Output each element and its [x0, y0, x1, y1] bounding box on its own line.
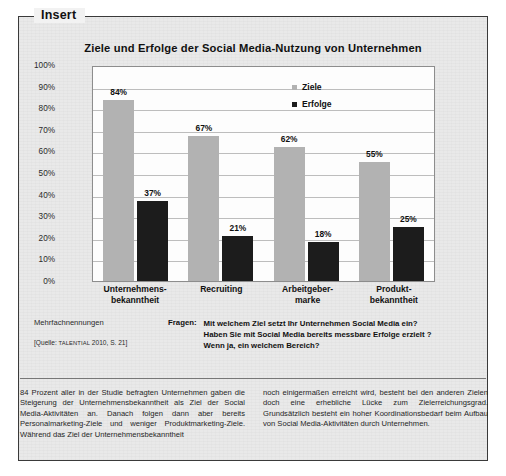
y-axis-tick-label: 40% [21, 191, 55, 200]
bar-group: 84%37% [93, 67, 178, 281]
x-axis-category-line: Arbeitgeber- [265, 284, 351, 295]
source-citation: [Quelle: TALENTIAL 2010, S. 21] [34, 339, 162, 346]
body-column-right: noch einigermaßen erreicht wird, besteht… [263, 388, 488, 440]
questions-block: Fragen: Mit welchem Ziel setzt Ihr Unter… [168, 318, 432, 351]
questions-list: Mit welchem Ziel setzt Ihr Unternehmen S… [204, 318, 432, 351]
bar-chart: 84%37%67%21%62%18%55%25% 100%90%80%70%60… [55, 66, 437, 282]
x-axis-category-label: Unternehmens-bekanntheit [92, 284, 178, 305]
chart-notes: Mehrfachnennungen [Quelle: TALENTIAL 201… [34, 318, 162, 346]
bar-erfolge: 21% [222, 236, 253, 281]
legend-label-erfolge: Erfolge [302, 99, 332, 109]
x-axis-labels: Unternehmens-bekanntheitRecruitingArbeit… [92, 284, 437, 305]
y-axis-tick-label: 30% [21, 212, 55, 221]
multiple-answers-note: Mehrfachnennungen [34, 318, 162, 327]
questions-label: Fragen: [168, 318, 197, 351]
bar-ziele: 62% [274, 147, 305, 281]
bar-value-label: 25% [400, 214, 417, 224]
bar-ziele: 84% [103, 100, 134, 281]
y-axis-tick-label: 60% [21, 147, 55, 156]
y-axis-tick-label: 70% [21, 126, 55, 135]
bar-value-label: 21% [229, 223, 246, 233]
bar-value-label: 84% [110, 87, 127, 97]
chart-plot-area: 84%37%67%21%62%18%55%25% [92, 66, 435, 282]
bar-ziele: 67% [188, 136, 219, 281]
bar-group: 67%21% [178, 67, 263, 281]
question-line: Haben Sie mit Social Media bereits messb… [204, 329, 432, 340]
source-suffix: 2010, S. 21] [90, 339, 127, 346]
x-axis-category-line: bekanntheit [351, 295, 437, 306]
source-prefix: [Quelle: [34, 339, 59, 346]
bar-value-label: 37% [144, 188, 161, 198]
x-axis-category-line: Unternehmens- [92, 284, 178, 295]
x-axis-category-label: Produkt-bekanntheit [351, 284, 437, 305]
bar-erfolge: 25% [393, 227, 424, 281]
y-axis-tick-label: 10% [21, 255, 55, 264]
bar-value-label: 62% [281, 134, 298, 144]
x-axis-category-line: Produkt- [351, 284, 437, 295]
bar-value-label: 67% [195, 123, 212, 133]
y-axis-tick-label: 90% [21, 83, 55, 92]
bar-erfolge: 18% [308, 242, 339, 281]
y-axis-tick-label: 50% [21, 169, 55, 178]
legend-swatch-icon-ziele [292, 85, 297, 90]
bar-value-label: 55% [366, 149, 383, 159]
legend-item-erfolge: Erfolge [292, 99, 332, 109]
insert-legend-label: Insert [34, 8, 85, 23]
question-line: Wenn ja, ein welchem Bereich? [204, 340, 432, 351]
legend-label-ziele: Ziele [302, 82, 322, 92]
question-line: Mit welchem Ziel setzt Ihr Unternehmen S… [204, 318, 432, 329]
y-axis-tick-label: 20% [21, 234, 55, 243]
x-axis-category-label: Recruiting [178, 284, 264, 305]
bar-erfolge: 37% [137, 201, 168, 281]
legend-item-ziele: Ziele [292, 82, 332, 92]
x-axis-category-line: Recruiting [178, 284, 264, 295]
body-column-left: 84 Prozent aller in der Studie befragten… [20, 388, 245, 440]
source-name: TALENTIAL [59, 340, 90, 346]
scanned-page: Insert Ziele und Erfolge der Social Medi… [0, 0, 506, 476]
legend-swatch-icon-erfolge [292, 102, 297, 107]
chart-bars: 84%37%67%21%62%18%55%25% [93, 67, 434, 281]
x-axis-category-label: Arbeitgeber-marke [265, 284, 351, 305]
chart-legend: Ziele Erfolge [292, 82, 332, 116]
y-axis-tick-label: 0% [21, 277, 55, 286]
y-axis-tick-label: 80% [21, 104, 55, 113]
chart-title: Ziele und Erfolge der Social Media-Nutzu… [0, 42, 506, 54]
x-axis-category-line: bekanntheit [92, 295, 178, 306]
y-axis-tick-label: 100% [21, 61, 55, 70]
body-text: 84 Prozent aller in der Studie befragten… [20, 388, 488, 440]
bar-group: 55%25% [349, 67, 434, 281]
bar-ziele: 55% [359, 162, 390, 281]
bar-value-label: 18% [315, 229, 332, 239]
x-axis-category-line: marke [265, 295, 351, 306]
section-divider [20, 378, 486, 379]
